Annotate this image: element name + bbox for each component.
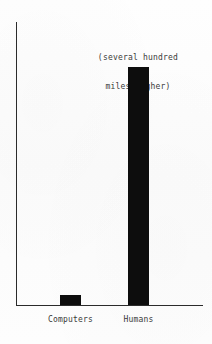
annotation-line-1: (several hundred bbox=[78, 53, 198, 63]
bar-humans bbox=[128, 67, 149, 305]
x-axis-line bbox=[16, 305, 203, 306]
x-axis-label-humans: Humans bbox=[99, 315, 178, 325]
bar-chart: (several hundred miles higher) Computers… bbox=[0, 0, 212, 344]
y-axis-line bbox=[16, 22, 17, 306]
bar-computers bbox=[60, 295, 81, 305]
